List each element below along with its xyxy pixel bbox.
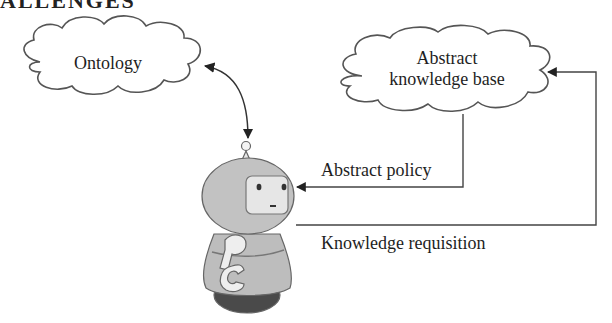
abstract-policy-label: Abstract policy [321,160,431,180]
ontology-agent-link [205,66,248,138]
ontology-label: Ontology [74,53,142,73]
knowledge-requisition-label: Knowledge requisition [321,233,485,253]
knowledge-base-label-line1: Abstract [382,48,512,68]
diagram-canvas [0,0,612,323]
knowledge-base-label-line2: knowledge base [372,69,522,89]
robot-icon [202,142,294,314]
